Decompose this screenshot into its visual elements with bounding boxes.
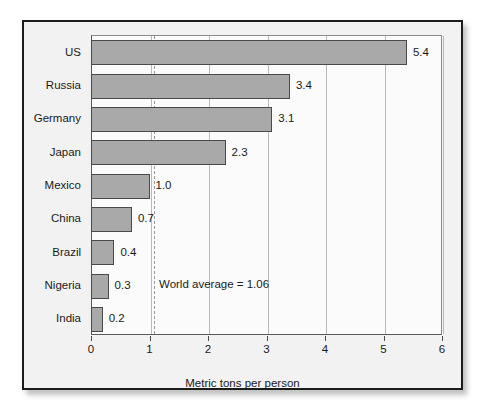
chart-panel: 5.4US3.4Russia3.1Germany2.3Japan1.0Mexic… <box>22 20 463 390</box>
bar-mexico[interactable] <box>91 174 150 199</box>
bar-russia[interactable] <box>91 74 290 99</box>
gridline-6 <box>443 36 444 334</box>
category-label-us: US <box>65 47 81 59</box>
x-tick-label-2: 2 <box>193 344 223 356</box>
bar-value-brazil: 0.4 <box>120 247 136 259</box>
bar-us[interactable] <box>91 40 407 65</box>
bar-value-nigeria: 0.3 <box>115 280 131 292</box>
x-tick-mark-4 <box>325 336 326 341</box>
bar-nigeria[interactable] <box>91 274 109 299</box>
bar-value-us: 5.4 <box>413 47 429 59</box>
x-tick-label-4: 4 <box>310 344 340 356</box>
category-label-russia: Russia <box>46 80 81 92</box>
x-axis-title: Metric tons per person <box>24 378 461 390</box>
category-label-mexico: Mexico <box>45 180 81 192</box>
x-tick-mark-6 <box>442 336 443 341</box>
x-tick-mark-1 <box>150 336 151 341</box>
x-tick-label-3: 3 <box>252 344 282 356</box>
bar-japan[interactable] <box>91 140 226 165</box>
category-label-japan: Japan <box>50 147 81 159</box>
bar-brazil[interactable] <box>91 240 114 265</box>
x-tick-mark-3 <box>267 336 268 341</box>
bar-value-china: 0.7 <box>138 213 154 225</box>
x-tick-label-0: 0 <box>76 344 106 356</box>
category-label-nigeria: Nigeria <box>45 280 81 292</box>
x-tick-mark-0 <box>91 336 92 341</box>
category-label-brazil: Brazil <box>52 247 81 259</box>
category-label-china: China <box>51 213 81 225</box>
bar-value-germany: 3.1 <box>278 113 294 125</box>
bar-india[interactable] <box>91 307 103 332</box>
x-tick-mark-2 <box>208 336 209 341</box>
category-label-india: India <box>56 313 81 325</box>
bar-china[interactable] <box>91 207 132 232</box>
bar-value-russia: 3.4 <box>296 80 312 92</box>
bar-value-india: 0.2 <box>109 313 125 325</box>
x-tick-mark-5 <box>384 336 385 341</box>
x-tick-label-5: 5 <box>369 344 399 356</box>
gridline-5 <box>385 36 386 334</box>
gridline-4 <box>326 36 327 334</box>
bar-germany[interactable] <box>91 107 272 132</box>
x-tick-label-1: 1 <box>135 344 165 356</box>
x-tick-label-6: 6 <box>427 344 457 356</box>
bar-value-japan: 2.3 <box>232 147 248 159</box>
category-label-germany: Germany <box>34 113 81 125</box>
world-average-annotation: World average = 1.06 <box>159 279 269 291</box>
bar-value-mexico: 1.0 <box>156 180 172 192</box>
figure-root: 5.4US3.4Russia3.1Germany2.3Japan1.0Mexic… <box>0 0 487 417</box>
